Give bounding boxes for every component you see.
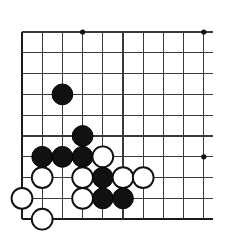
white-stone[interactable] [92,146,113,167]
stone-disc-black [52,84,73,105]
white-stone[interactable] [32,209,53,230]
stone-disc-black [72,126,93,147]
black-stone[interactable] [72,126,93,147]
stone-disc-white [32,209,53,230]
star-point [201,29,206,34]
stone-disc-white [92,146,113,167]
white-stone[interactable] [12,188,33,209]
white-stone[interactable] [72,167,93,188]
stone-disc-white [133,167,154,188]
stone-disc-black [92,167,113,188]
stone-disc-white [72,167,93,188]
star-point [201,154,206,159]
black-stone[interactable] [72,146,93,167]
stone-disc-white [32,167,53,188]
stone-disc-black [52,146,73,167]
stone-disc-white [12,188,33,209]
white-stone[interactable] [113,167,134,188]
star-point [80,29,85,34]
white-stone[interactable] [72,188,93,209]
black-stone[interactable] [32,146,53,167]
black-stone[interactable] [52,146,73,167]
stone-disc-white [72,188,93,209]
stone-disc-white [113,167,134,188]
go-board-diagram [0,0,233,250]
black-stone[interactable] [92,167,113,188]
black-stone[interactable] [113,188,134,209]
white-stone[interactable] [32,167,53,188]
stone-disc-black [113,188,134,209]
white-stone[interactable] [133,167,154,188]
go-board-canvas [0,0,233,250]
stone-disc-black [32,146,53,167]
black-stone[interactable] [52,84,73,105]
stone-disc-black [92,188,113,209]
black-stone[interactable] [92,188,113,209]
stone-disc-black [72,146,93,167]
